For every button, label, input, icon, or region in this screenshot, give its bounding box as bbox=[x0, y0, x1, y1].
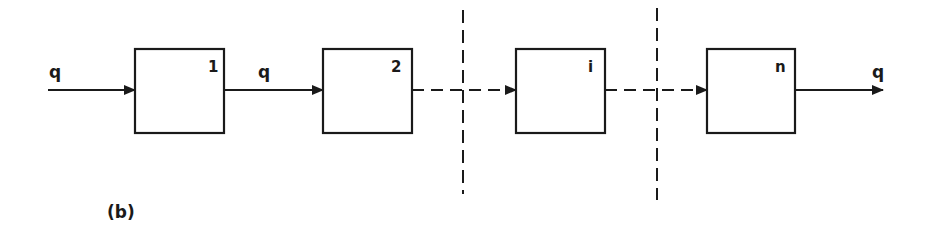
block-i-label: i bbox=[588, 58, 593, 76]
block-2: 2 bbox=[323, 49, 412, 133]
connector-1-2-label: q bbox=[258, 62, 270, 82]
block-n-label: n bbox=[775, 58, 786, 76]
figure-caption: (b) bbox=[107, 202, 135, 222]
block-i: i bbox=[516, 49, 605, 133]
series-block-diagram: q 1 q 2 i n q (b) bbox=[0, 0, 925, 248]
input-flow-label: q bbox=[49, 62, 61, 82]
block-1: 1 bbox=[135, 49, 224, 133]
block-2-label: 2 bbox=[391, 58, 401, 76]
block-n: n bbox=[707, 49, 795, 133]
block-1-label: 1 bbox=[208, 58, 218, 76]
output-flow-label: q bbox=[872, 62, 884, 82]
